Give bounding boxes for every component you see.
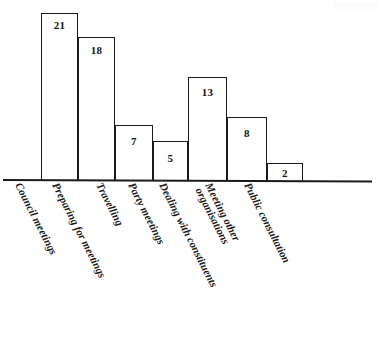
category-labels: Council meetings Preparing for meetings … <box>0 181 382 341</box>
bar-value-label: 2 <box>268 167 302 179</box>
bar-value-label: 18 <box>79 44 114 56</box>
category-label-meeting-other-organisations: Meeting other organisations <box>193 181 242 248</box>
category-label-council-meetings: Council meetings <box>13 181 59 257</box>
category-label-line: Travelling <box>94 181 126 228</box>
category-label-public-consultation: Public consultation <box>242 181 292 265</box>
bar-value-label: 8 <box>228 127 266 139</box>
category-label-line: Public consultation <box>242 181 293 265</box>
plot-area: 21 18 7 5 13 8 2 <box>0 0 382 181</box>
category-label-travelling: Travelling <box>94 181 125 228</box>
bar-value-label: 13 <box>189 86 226 98</box>
bar-value-label: 21 <box>42 19 77 31</box>
bar-value-label: 7 <box>116 135 152 147</box>
bar-preparing-for-meetings: 18 <box>78 37 115 181</box>
bar-party-meetings: 5 <box>153 141 188 181</box>
bar-public-consultation: 2 <box>267 163 303 181</box>
bar-value-label: 5 <box>154 152 187 164</box>
bar-chart: 21 18 7 5 13 8 2 Council meetings Prepar… <box>0 0 382 341</box>
bar-travelling: 7 <box>115 125 153 181</box>
bar-meeting-other-organisations: 8 <box>227 117 267 181</box>
bar-dealing-with-constituents: 13 <box>188 77 227 181</box>
bar-council-meetings: 21 <box>41 13 78 181</box>
